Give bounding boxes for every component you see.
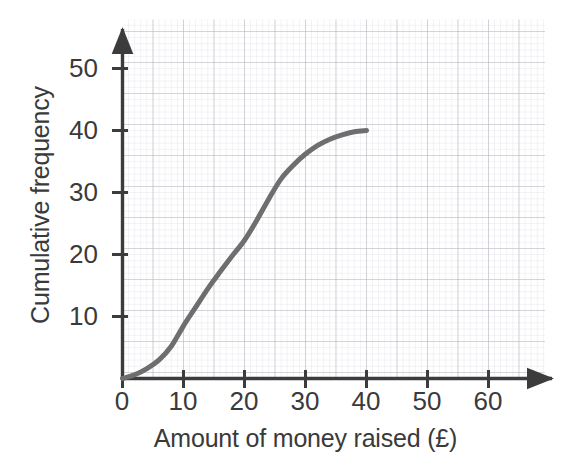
x-tick-label-20: 20 xyxy=(221,386,267,417)
x-tick-label-60: 60 xyxy=(465,386,511,417)
x-tick-label-30: 30 xyxy=(282,386,328,417)
y-axis-title: Cumulative frequency xyxy=(22,25,58,385)
x-tick-label-0: 0 xyxy=(99,386,145,417)
x-tick-label-50: 50 xyxy=(404,386,450,417)
x-tick-label-10: 10 xyxy=(160,386,206,417)
x-axis-title: Amount of money raised (£) xyxy=(0,424,573,453)
cumulative-frequency-chart: 10 20 30 40 50 0 10 20 30 40 50 60 Amoun… xyxy=(0,0,573,473)
x-tick-label-40: 40 xyxy=(343,386,389,417)
